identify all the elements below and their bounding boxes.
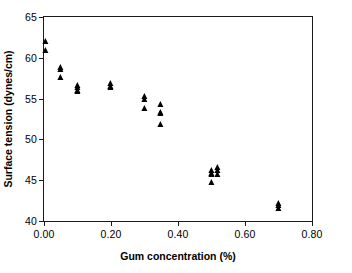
y-axis-title-text: Surface tension (dynes/cm) [2, 50, 14, 187]
y-axis-tick [39, 180, 44, 181]
x-axis-title: Gum concentration (%) [43, 250, 313, 262]
y-axis-tick-label: 45 [25, 174, 37, 186]
plot-frame: 4045505560650.000.200.400.600.80 [43, 16, 313, 222]
data-point-marker [208, 179, 214, 185]
y-axis-tick-label: 65 [25, 11, 37, 23]
x-axis-tick [111, 221, 112, 226]
y-axis-tick-label: 60 [25, 52, 37, 64]
data-point-marker [57, 66, 63, 72]
x-axis-tick-label: 0.80 [302, 228, 323, 240]
y-axis-tick-label: 55 [25, 93, 37, 105]
x-axis-tick-label: 0.40 [168, 228, 189, 240]
data-point-marker [42, 47, 48, 53]
data-point-marker [208, 171, 214, 177]
data-point-marker [275, 205, 281, 211]
y-axis-title: Surface tension (dynes/cm) [0, 16, 16, 222]
y-axis-tick [39, 17, 44, 18]
data-point-marker [107, 84, 113, 90]
data-point-marker [141, 95, 147, 101]
x-axis-tick-label: 0.20 [101, 228, 122, 240]
y-axis-tick-label: 40 [25, 215, 37, 227]
data-point-marker [42, 38, 48, 44]
data-point-marker [158, 101, 164, 107]
x-axis-tick-label: 0.00 [34, 228, 55, 240]
data-point-marker [158, 110, 164, 116]
x-axis-tick [312, 221, 313, 226]
data-point-marker [141, 104, 147, 110]
data-point-marker [57, 74, 63, 80]
plot-area [44, 17, 312, 221]
y-axis-tick [39, 58, 44, 59]
x-axis-tick-label: 0.60 [235, 228, 256, 240]
scatter-chart-figure: Surface tension (dynes/cm) 4045505560650… [0, 0, 352, 273]
data-point-marker [215, 171, 221, 177]
x-axis-tick [245, 221, 246, 226]
x-axis-tick [44, 221, 45, 226]
data-point-marker [158, 121, 164, 127]
x-axis-tick [178, 221, 179, 226]
y-axis-tick [39, 99, 44, 100]
data-point-marker [74, 88, 80, 94]
y-axis-tick [39, 139, 44, 140]
y-axis-tick-label: 50 [25, 133, 37, 145]
